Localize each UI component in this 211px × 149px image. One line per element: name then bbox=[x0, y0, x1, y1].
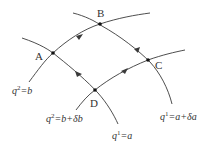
label-b: B bbox=[97, 7, 104, 19]
label-c: C bbox=[155, 59, 162, 71]
arrow-c-to-d-icon bbox=[121, 68, 128, 74]
equation-q1-a-da: q1=a+δa bbox=[160, 110, 197, 122]
coordinate-loop-diagram: A B C D q2=b q2=b+δb q1=a q1=a+δa bbox=[0, 0, 211, 149]
point-c bbox=[146, 58, 150, 62]
point-b bbox=[98, 22, 102, 26]
point-d bbox=[93, 88, 97, 92]
equation-q2-b-db: q2=b+δb bbox=[46, 112, 83, 124]
label-a: A bbox=[35, 50, 43, 62]
label-d: D bbox=[90, 97, 98, 109]
equation-q2-b: q2=b bbox=[12, 84, 32, 96]
equation-q1-a: q1=a bbox=[112, 129, 132, 141]
curve-q2-b bbox=[29, 13, 150, 82]
point-a bbox=[51, 51, 55, 55]
